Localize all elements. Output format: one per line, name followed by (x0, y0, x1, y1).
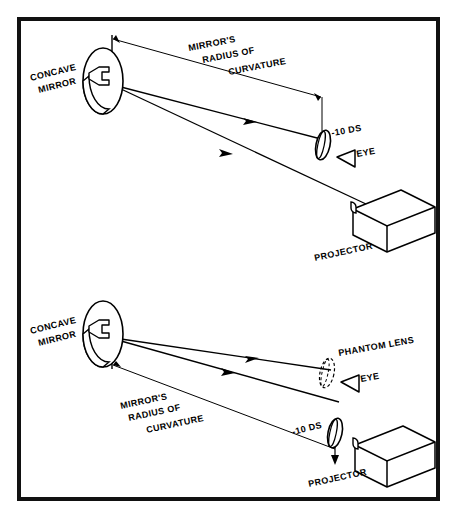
dimension-arrow-icon (314, 93, 321, 101)
concave-mirror-icon (83, 301, 123, 367)
eye-label-bottom: EYE (360, 371, 381, 384)
diagram-svg: CONCAVE MIRROR MIRROR'S RADIUS OF CURVAT… (21, 21, 436, 497)
eye-icon (341, 375, 359, 392)
radius-dimension-line-top (112, 35, 322, 131)
ray-arrowhead-icon (219, 149, 233, 157)
minus-lens-icon (325, 417, 345, 449)
light-rays-bottom (121, 339, 339, 402)
radius-label-bottom: MIRROR'S RADIUS OF CURVATURE (119, 391, 204, 435)
dimension-arrow-icon (113, 35, 120, 43)
projector-label-top: PROJECTOR (313, 241, 373, 263)
top-panel: CONCAVE MIRROR MIRROR'S RADIUS OF CURVAT… (29, 34, 435, 263)
dimension-arrow-icon (331, 455, 339, 465)
radius-label-line3: CURVATURE (227, 56, 286, 77)
figure-canvas: CONCAVE MIRROR MIRROR'S RADIUS OF CURVAT… (0, 0, 454, 517)
eye-icon (337, 150, 355, 167)
phantom-lens-label: PHANTOM LENS (338, 335, 415, 358)
minus-lens-icon (313, 129, 333, 161)
phantom-lens-icon (317, 357, 337, 389)
projector-icon (353, 426, 435, 487)
projector-label-bottom: PROJECTOR (307, 467, 367, 489)
bottom-panel: CONCAVE MIRROR MIRROR'S RADIUS OF CURVAT… (29, 301, 435, 489)
lens-power-label-top: -10 DS (331, 123, 363, 138)
eye-label-top: EYE (356, 146, 377, 159)
ray-arrowhead-icon (243, 118, 257, 125)
radius-label-top: MIRROR'S RADIUS OF CURVATURE (187, 34, 286, 77)
radius-dimension-line-bottom (112, 351, 339, 465)
concave-mirror-icon (83, 48, 123, 114)
lens-power-label-bottom: -10 DS (291, 420, 323, 437)
figure-border: CONCAVE MIRROR MIRROR'S RADIUS OF CURVAT… (17, 17, 440, 501)
